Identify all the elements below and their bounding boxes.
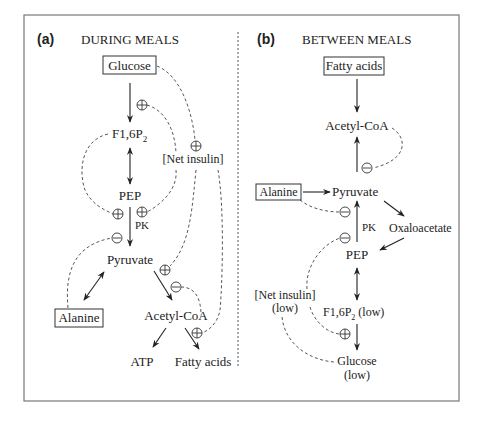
panel-a-title: DURING MEALS	[81, 32, 179, 47]
node-pyruvate-b: Pyruvate	[332, 184, 378, 199]
node-glucose-low: (low)	[344, 368, 370, 382]
minus-icon	[171, 282, 181, 292]
node-net-insulin: [Net insulin]	[163, 152, 224, 166]
node-alanine: Alanine	[58, 310, 99, 325]
node-oxaloacetate: Oxaloacetate	[389, 221, 452, 235]
plus-icon	[113, 209, 123, 219]
label-pk-b: PK	[362, 221, 376, 233]
node-net-insulin-b: [Net insulin]	[255, 288, 316, 302]
minus-icon	[112, 233, 122, 243]
node-acetyl-coa-b: Acetyl-CoA	[325, 118, 389, 133]
node-pyruvate: Pyruvate	[107, 252, 153, 267]
minus-icon	[362, 163, 372, 173]
plus-icon	[160, 265, 170, 275]
plus-icon	[137, 100, 147, 110]
panel-a-letter: (a)	[37, 31, 54, 47]
panel-b-title: BETWEEN MEALS	[302, 32, 411, 47]
node-glucose-b: Glucose	[337, 354, 376, 368]
node-glucose: Glucose	[108, 58, 151, 73]
minus-icon	[340, 233, 350, 243]
node-alanine-b: Alanine	[260, 185, 298, 199]
panel-b-letter: (b)	[257, 31, 275, 47]
plus-icon	[192, 328, 202, 338]
node-net-insulin-low: (low)	[272, 301, 298, 315]
node-atp: ATP	[130, 354, 153, 369]
metabolic-regulation-diagram: (a) DURING MEALS Glucose F1,6P2 PEP PK P…	[0, 0, 481, 423]
node-fatty-acids: Fatty acids	[175, 354, 232, 369]
plus-icon	[191, 141, 201, 151]
node-fatty-acids-b: Fatty acids	[326, 58, 383, 73]
label-pk: PK	[135, 219, 149, 231]
node-acetyl-coa: Acetyl-CoA	[144, 308, 208, 323]
plus-icon	[340, 329, 350, 339]
minus-icon	[340, 207, 350, 217]
node-pep-b: PEP	[346, 247, 368, 262]
node-pep: PEP	[119, 188, 141, 203]
plus-icon	[137, 207, 147, 217]
